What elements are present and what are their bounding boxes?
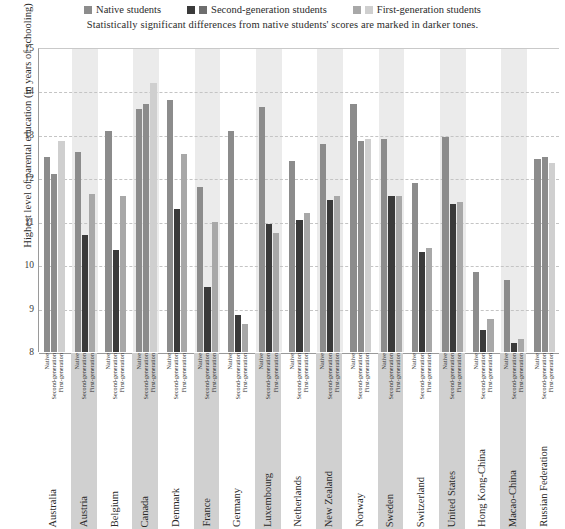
bar-second-generation <box>51 174 57 352</box>
x-label-group: NativeSecond-generationFirst-generationB… <box>102 353 128 529</box>
country-name-wrap: Austria <box>71 407 97 527</box>
series-name-stack: NativeSecond-generationFirst-generation <box>316 353 342 411</box>
y-tick-label-11: 11 <box>12 217 34 227</box>
x-label-group: NativeSecond-generationFirst-generationM… <box>500 353 526 529</box>
bar-native <box>473 272 479 352</box>
series-name-native: Native <box>319 353 325 370</box>
legend-label-native: Native students <box>96 5 161 16</box>
series-name-native: Native <box>44 353 50 370</box>
bar-first-generation <box>426 248 432 352</box>
series-name-second-generation: Second-generation <box>327 353 333 399</box>
bar-second-generation <box>480 330 486 352</box>
country-name-wrap: Norway <box>347 407 373 527</box>
bar-second-generation <box>204 287 210 352</box>
x-tick-label: Denmark <box>171 488 182 527</box>
series-name-first-generation: First-generation <box>548 353 554 393</box>
bar-first-generation <box>273 233 279 352</box>
series-name-stack: NativeSecond-generationFirst-generation <box>408 353 434 411</box>
series-name-native: Native <box>227 353 233 370</box>
series-name-second-generation: Second-generation <box>173 353 179 399</box>
series-name-stack: NativeSecond-generationFirst-generation <box>439 353 465 411</box>
bar-native <box>105 131 111 352</box>
x-label-group: NativeSecond-generationFirst-generationN… <box>347 353 373 529</box>
series-name-native: Native <box>136 353 142 370</box>
y-tick-label-9: 9 <box>12 304 34 314</box>
x-label-group: NativeSecond-generationFirst-generationS… <box>378 353 404 529</box>
bar-first-generation <box>89 194 95 353</box>
series-name-native: Native <box>411 353 417 370</box>
bar-series-container <box>39 49 559 352</box>
y-tick-label-8: 8 <box>12 347 34 357</box>
bar-first-generation <box>120 196 126 352</box>
bar-first-generation <box>549 163 555 352</box>
bar-second-generation <box>327 200 333 352</box>
bar-first-generation <box>181 154 187 352</box>
x-tick-label: Austria <box>79 496 90 527</box>
bar-native <box>259 107 265 352</box>
series-name-second-generation: Second-generation <box>511 353 517 399</box>
bar-first-generation <box>457 202 463 352</box>
series-name-first-generation: First-generation <box>181 353 187 393</box>
x-label-group: NativeSecond-generationFirst-generationN… <box>316 353 342 529</box>
bar-native <box>381 139 387 352</box>
bar-second-generation <box>82 235 88 352</box>
series-name-second-generation: Second-generation <box>235 353 241 399</box>
country-name-wrap: Canada <box>132 407 158 527</box>
series-name-first-generation: First-generation <box>487 353 493 393</box>
y-tick-label-13: 13 <box>12 130 34 140</box>
series-name-stack: NativeSecond-generationFirst-generation <box>255 353 281 411</box>
series-name-stack: NativeSecond-generationFirst-generation <box>41 353 67 411</box>
x-label-group: NativeSecond-generationFirst-generationG… <box>224 353 250 529</box>
series-name-native: Native <box>503 353 509 370</box>
bar-first-generation <box>150 83 156 352</box>
series-name-first-generation: First-generation <box>395 353 401 393</box>
x-tick-label: Hong Kong-China <box>477 449 488 527</box>
x-label-group: NativeSecond-generationFirst-generationU… <box>439 353 465 529</box>
legend-swatch-first-generation-nonsignificant <box>365 6 373 14</box>
series-name-second-generation: Second-generation <box>143 353 149 399</box>
series-name-stack: NativeSecond-generationFirst-generation <box>132 353 158 411</box>
legend-swatch-second-generation-significant <box>187 6 195 14</box>
country-name-wrap: Belgium <box>102 407 128 527</box>
series-name-first-generation: First-generation <box>89 353 95 393</box>
x-label-group: NativeSecond-generationFirst-generationC… <box>132 353 158 529</box>
country-name-wrap: Macao-China <box>500 407 526 527</box>
series-name-first-generation: First-generation <box>242 353 248 393</box>
country-name-wrap: Luxembourg <box>255 407 281 527</box>
bar-first-generation <box>212 222 218 352</box>
bar-second-generation <box>542 157 548 352</box>
series-name-second-generation: Second-generation <box>51 353 57 399</box>
country-name-wrap: Denmark <box>163 407 189 527</box>
legend-label-first-generation: First-generation students <box>377 5 481 16</box>
series-name-first-generation: First-generation <box>426 353 432 393</box>
series-name-first-generation: First-generation <box>211 353 217 393</box>
y-tick-label-14: 14 <box>12 86 34 96</box>
series-name-first-generation: First-generation <box>58 353 64 393</box>
bar-first-generation <box>396 196 402 352</box>
bar-first-generation <box>487 319 493 352</box>
series-name-second-generation: Second-generation <box>265 353 271 399</box>
series-name-first-generation: First-generation <box>303 353 309 393</box>
country-name-wrap: Germany <box>224 407 250 527</box>
bar-second-generation <box>450 204 456 352</box>
series-name-stack: NativeSecond-generationFirst-generation <box>102 353 128 411</box>
series-name-stack: NativeSecond-generationFirst-generation <box>224 353 250 411</box>
series-name-stack: NativeSecond-generationFirst-generation <box>378 353 404 411</box>
bar-native <box>167 100 173 352</box>
bar-second-generation <box>143 104 149 352</box>
bar-native <box>197 187 203 352</box>
y-tick-label-15: 15 <box>12 43 34 53</box>
series-name-first-generation: First-generation <box>518 353 524 393</box>
series-name-first-generation: First-generation <box>364 353 370 393</box>
series-name-native: Native <box>105 353 111 370</box>
bar-second-generation <box>358 141 364 352</box>
legend-swatch-native <box>84 6 92 14</box>
bar-second-generation <box>388 196 394 352</box>
bar-native <box>320 144 326 352</box>
series-name-stack: NativeSecond-generationFirst-generation <box>163 353 189 411</box>
series-name-second-generation: Second-generation <box>419 353 425 399</box>
x-tick-label: New Zealand <box>324 471 335 527</box>
legend-item-second-generation: Second-generation students <box>187 5 327 16</box>
bar-first-generation <box>334 196 340 352</box>
bar-native <box>442 137 448 352</box>
